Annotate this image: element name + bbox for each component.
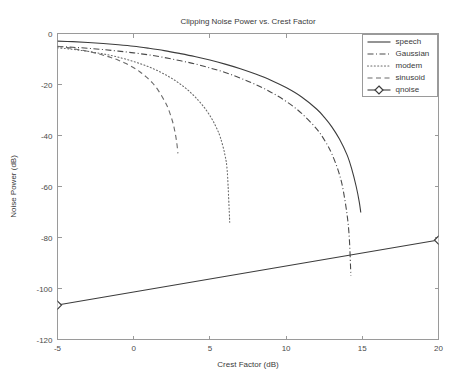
series-qnoise bbox=[54, 236, 443, 309]
x-tick-label: 0 bbox=[131, 344, 136, 353]
x-tick-label: -5 bbox=[54, 344, 62, 353]
series-sinusoid bbox=[58, 46, 178, 153]
series-modem bbox=[58, 48, 230, 222]
x-tick-label: 20 bbox=[434, 344, 443, 353]
legend: speechGaussianmodemsinusoidqnoise bbox=[363, 35, 438, 97]
x-axis-label: Crest Factor (dB) bbox=[217, 360, 279, 369]
x-tick-label: 10 bbox=[282, 344, 291, 353]
legend-label-sinusoid: sinusoid bbox=[396, 73, 425, 82]
chart-figure: -5051015200-20-40-60-80-100-120Clipping … bbox=[0, 0, 465, 383]
legend-label-gaussian: Gaussian bbox=[396, 49, 430, 58]
y-tick-label: -20 bbox=[41, 81, 53, 90]
series-line-modem bbox=[58, 48, 230, 222]
data-point-marker-qnoise bbox=[54, 301, 62, 309]
y-tick-label: -80 bbox=[41, 234, 53, 243]
legend-label-speech: speech bbox=[396, 37, 422, 46]
y-tick-label: 0 bbox=[48, 30, 53, 39]
y-axis-label: Noise Power (dB) bbox=[9, 155, 18, 218]
y-tick-label: -40 bbox=[41, 132, 53, 141]
series-gaussian bbox=[58, 47, 351, 276]
y-tick-label: -120 bbox=[36, 336, 53, 345]
x-tick-label: 15 bbox=[358, 344, 367, 353]
y-tick-label: -60 bbox=[41, 183, 53, 192]
chart-title: Clipping Noise Power vs. Crest Factor bbox=[180, 17, 315, 26]
series-line-sinusoid bbox=[58, 46, 178, 153]
chart-canvas: -5051015200-20-40-60-80-100-120Clipping … bbox=[0, 0, 465, 383]
legend-label-modem: modem bbox=[396, 61, 423, 70]
series-line-gaussian bbox=[58, 47, 351, 276]
series-line-qnoise bbox=[58, 240, 439, 305]
y-tick-label: -100 bbox=[36, 285, 53, 294]
x-tick-label: 5 bbox=[208, 344, 213, 353]
legend-label-qnoise: qnoise bbox=[396, 85, 420, 94]
